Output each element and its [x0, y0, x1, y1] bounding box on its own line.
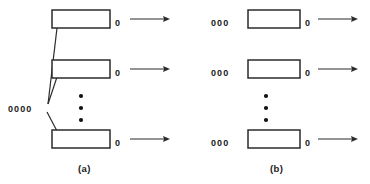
server-box: [248, 130, 300, 148]
exit-customer-label: 0: [305, 138, 311, 148]
vertical-ellipsis-a: [79, 94, 83, 122]
connector-lines-a: [47, 28, 57, 131]
server-row-a-1: 0: [52, 10, 170, 28]
ellipsis-dot: [79, 106, 83, 110]
panel-b: 000 0 000 0 000: [211, 10, 358, 174]
exit-customer-label: 0: [305, 68, 311, 78]
panel-a-caption: (a): [78, 163, 91, 174]
departure-arrow-head: [351, 136, 358, 142]
ellipsis-dot: [264, 106, 268, 110]
exit-customer-label: 0: [115, 68, 121, 78]
shared-queue-label-a: 0000: [8, 104, 32, 114]
exit-customer-label: 0: [115, 18, 121, 28]
departure-arrow-head: [163, 66, 170, 72]
queue-label: 000: [211, 18, 229, 28]
server-row-b-2: 000 0: [211, 60, 358, 78]
queue-label: 000: [211, 138, 229, 148]
server-row-a-3: 0: [52, 130, 170, 148]
panel-b-caption: (b): [270, 163, 283, 174]
ellipsis-dot: [264, 94, 268, 98]
panel-a: 0000 0 0: [8, 10, 170, 174]
departure-arrow-head: [351, 16, 358, 22]
ellipsis-dot: [264, 118, 268, 122]
server-box: [248, 10, 300, 28]
server-box: [248, 60, 300, 78]
queue-label: 000: [211, 68, 229, 78]
departure-arrow-head: [163, 136, 170, 142]
departure-arrow-head: [351, 66, 358, 72]
ellipsis-dot: [79, 94, 83, 98]
diagram-canvas: 0000 0 0: [0, 0, 370, 184]
ellipsis-dot: [79, 118, 83, 122]
queueing-diagram-figure: 0000 0 0: [0, 0, 370, 184]
server-row-b-1: 000 0: [211, 10, 358, 28]
connector-line-to-server-3: [47, 112, 57, 131]
vertical-ellipsis-b: [264, 94, 268, 122]
server-box: [52, 60, 110, 78]
exit-customer-label: 0: [305, 18, 311, 28]
server-box: [52, 10, 110, 28]
exit-customer-label: 0: [115, 138, 121, 148]
server-row-a-2: 0: [52, 60, 170, 78]
server-row-b-3: 000 0: [211, 130, 358, 148]
departure-arrow-head: [163, 16, 170, 22]
server-box: [52, 130, 110, 148]
